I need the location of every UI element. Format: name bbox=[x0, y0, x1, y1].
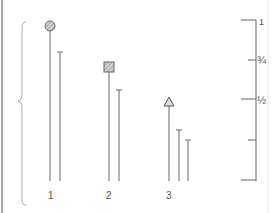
scale-label-1-2: ½ bbox=[257, 94, 266, 106]
square-marker-icon bbox=[104, 62, 114, 72]
scale-bar: 1 ¾ ½ bbox=[241, 17, 267, 181]
group-3 bbox=[164, 97, 191, 181]
group-label-2: 2 bbox=[106, 190, 112, 201]
scale-label-1: 1 bbox=[259, 17, 264, 27]
group-label-3: 3 bbox=[166, 190, 172, 201]
left-brace bbox=[18, 22, 26, 205]
circle-marker-icon bbox=[45, 21, 55, 31]
scale-label-3-4: ¾ bbox=[257, 54, 267, 66]
group-2 bbox=[104, 62, 122, 181]
group-1 bbox=[45, 21, 63, 181]
triangle-marker-icon bbox=[164, 97, 174, 106]
stem-diagram: 1 2 3 1 ¾ ½ bbox=[0, 0, 276, 213]
group-label-1: 1 bbox=[48, 190, 54, 201]
